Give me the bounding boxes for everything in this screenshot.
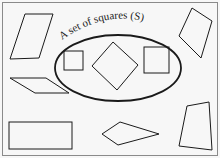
set-diagram: A set of squares (S) [0, 0, 220, 158]
background [0, 0, 220, 158]
diagram-svg: A set of squares (S) [0, 0, 220, 158]
